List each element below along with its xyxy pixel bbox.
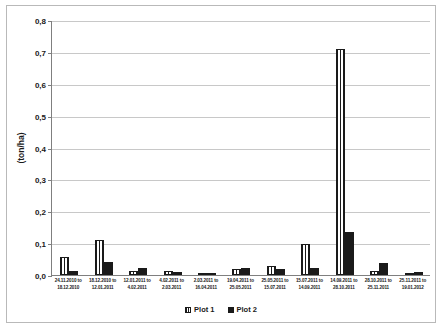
chart-legend: Plot 1Plot 2 xyxy=(7,305,435,314)
bar-plot-1[interactable] xyxy=(370,271,379,275)
bar-plot-1[interactable] xyxy=(267,266,276,275)
y-tick xyxy=(48,276,52,277)
y-tick-label: 0,5 xyxy=(35,112,46,121)
bar-plot-1[interactable] xyxy=(232,269,241,275)
bar-plot-1[interactable] xyxy=(198,273,207,275)
y-tick-label: 0,3 xyxy=(35,176,46,185)
legend-item-plot-1[interactable]: Plot 1 xyxy=(185,305,214,314)
bar-plot-2[interactable] xyxy=(104,262,113,275)
chart-frame: (ton/ha) 0,00,10,20,30,40,50,60,70,8 24.… xyxy=(6,5,436,323)
bar-plot-2[interactable] xyxy=(414,272,423,275)
bar-plot-1[interactable] xyxy=(60,257,69,275)
bar-plot-2[interactable] xyxy=(241,268,250,275)
y-tick-label: 0,8 xyxy=(35,17,46,26)
bar-group xyxy=(397,21,431,275)
plot-area: 0,00,10,20,30,40,50,60,70,8 xyxy=(51,21,430,276)
bar-group xyxy=(224,21,258,275)
y-axis-title: (ton/ha) xyxy=(16,132,26,163)
bar-plot-2[interactable] xyxy=(345,232,354,275)
bar-plot-2[interactable] xyxy=(379,263,388,275)
y-tick-label: 0,2 xyxy=(35,208,46,217)
legend-label: Plot 1 xyxy=(194,305,214,314)
bar-plot-2[interactable] xyxy=(276,269,285,275)
bar-group xyxy=(86,21,120,275)
bar-plot-2[interactable] xyxy=(207,273,216,275)
bar-group xyxy=(293,21,327,275)
bar-group xyxy=(259,21,293,275)
bar-plot-1[interactable] xyxy=(336,49,345,275)
bar-plot-2[interactable] xyxy=(138,268,147,275)
legend-label: Plot 2 xyxy=(237,305,257,314)
bar-groups xyxy=(52,21,430,275)
bar-group xyxy=(328,21,362,275)
bar-group xyxy=(155,21,189,275)
legend-swatch-icon xyxy=(228,307,234,313)
bar-plot-2[interactable] xyxy=(310,268,319,275)
y-tick-label: 0,4 xyxy=(35,144,46,153)
y-tick-label: 0,7 xyxy=(35,48,46,57)
legend-item-plot-2[interactable]: Plot 2 xyxy=(228,305,257,314)
bar-plot-1[interactable] xyxy=(301,244,310,275)
y-tick-label: 0,6 xyxy=(35,80,46,89)
x-tick-label: 25.11.2011 to19.01.2012 xyxy=(385,278,442,291)
bar-plot-1[interactable] xyxy=(95,240,104,275)
bar-group xyxy=(190,21,224,275)
y-tick-label: 0,1 xyxy=(35,240,46,249)
bar-plot-2[interactable] xyxy=(69,271,78,275)
bar-group xyxy=(121,21,155,275)
legend-swatch-icon xyxy=(185,307,191,313)
bar-plot-2[interactable] xyxy=(173,272,182,275)
bar-plot-1[interactable] xyxy=(164,271,173,275)
bar-group xyxy=(362,21,396,275)
x-axis-labels: 24.11.2010 to18.12.201018.12.2010 to12.0… xyxy=(51,278,430,302)
bar-plot-1[interactable] xyxy=(129,271,138,275)
bar-plot-1[interactable] xyxy=(405,273,414,275)
bar-group xyxy=(52,21,86,275)
